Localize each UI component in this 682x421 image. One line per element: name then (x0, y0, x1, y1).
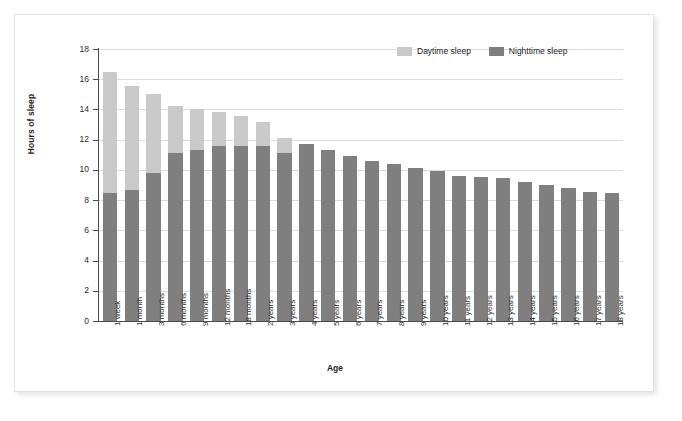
bar-segment-nighttime (365, 161, 379, 321)
bar-column[interactable] (103, 72, 117, 321)
legend-label: Daytime sleep (417, 46, 471, 56)
legend-item[interactable]: Daytime sleep (397, 46, 471, 56)
bar-column[interactable] (408, 168, 422, 321)
plot-area (99, 49, 623, 321)
x-axis-tick-label: 14 years (528, 295, 537, 326)
x-axis-title: Age (15, 363, 655, 373)
bar-segment-daytime (277, 138, 291, 152)
y-axis-tick-label: 6 (61, 226, 89, 235)
y-axis-tick-label-wrap: 4 (55, 256, 89, 265)
y-axis-tick-label-wrap: 0 (55, 317, 89, 326)
bar-segment-daytime (125, 86, 139, 190)
bar-column[interactable] (190, 109, 204, 321)
y-axis-tick-label-wrap: 12 (55, 135, 89, 144)
bar-segment-nighttime (256, 146, 270, 321)
bar-column[interactable] (168, 106, 182, 321)
x-axis-tick-label: 11 years (463, 296, 472, 326)
y-axis-tick-label-wrap: 2 (55, 286, 89, 295)
x-axis-tick-label: 12 years (485, 295, 494, 326)
bar-column[interactable] (256, 122, 270, 321)
bar-column[interactable] (277, 138, 291, 321)
y-axis-tick-label: 8 (61, 196, 89, 205)
bar-column[interactable] (321, 150, 335, 321)
bar-segment-nighttime (321, 150, 335, 321)
bar-segment-daytime (168, 106, 182, 154)
y-axis-tick-label-wrap: 14 (55, 105, 89, 114)
x-axis-tick-label: 18 months (244, 289, 253, 326)
bar-column[interactable] (146, 94, 160, 321)
x-axis-tick-label: 18 years (616, 295, 625, 326)
bar-segment-nighttime (299, 144, 313, 321)
x-axis-tick-label: 1 week (113, 301, 122, 326)
bar-column[interactable] (125, 86, 139, 321)
bar-segment-daytime (212, 112, 226, 146)
x-axis-tick-label: 6 months (179, 293, 188, 326)
y-axis-tick-label-wrap: 6 (55, 226, 89, 235)
y-axis-tick (93, 291, 99, 292)
gridline (99, 79, 623, 80)
x-axis-tick-label: 15 years (550, 295, 559, 326)
y-axis-tick-label: 18 (61, 45, 89, 54)
y-axis-tick (93, 321, 99, 322)
bar-segment-daytime (256, 122, 270, 145)
y-axis-tick-label: 0 (61, 317, 89, 326)
y-axis-tick-label-wrap: 16 (55, 75, 89, 84)
y-axis-tick-label-wrap: 10 (55, 165, 89, 174)
x-axis-tick-label: 3 months (157, 293, 166, 326)
x-axis-tick-label: 4 years (310, 300, 319, 326)
bar-segment-nighttime (277, 153, 291, 321)
y-axis-tick (93, 109, 99, 110)
legend-swatch-icon (489, 47, 504, 56)
x-axis-tick-label: 6 years (354, 300, 363, 326)
x-axis-tick-label: 3 years (288, 300, 297, 326)
x-axis-tick-label: 8 years (397, 300, 406, 326)
y-axis-tick (93, 200, 99, 201)
chart-legend: Daytime sleepNighttime sleep (397, 45, 567, 57)
y-axis-tick (93, 170, 99, 171)
y-axis-tick-label: 14 (61, 105, 89, 114)
y-axis-tick-label-wrap: 8 (55, 196, 89, 205)
y-axis-tick-label: 12 (61, 135, 89, 144)
x-axis-tick-label: 10 years (441, 295, 450, 326)
y-axis-tick (93, 79, 99, 80)
chart-figure: Hours of sleep 024681012141618 1 week1 m… (14, 14, 654, 392)
bar-segment-nighttime (408, 168, 422, 321)
bar-segment-daytime (190, 109, 204, 150)
x-axis-tick-label: 9 years (419, 300, 428, 326)
bar-column[interactable] (365, 161, 379, 321)
x-axis-tick-label: 13 years (506, 295, 515, 326)
y-axis-tick (93, 261, 99, 262)
bar-column[interactable] (299, 144, 313, 321)
bar-segment-daytime (234, 116, 248, 146)
y-axis-tick-label: 16 (61, 75, 89, 84)
bar-segment-daytime (103, 72, 117, 193)
legend-swatch-icon (397, 47, 412, 56)
bar-segment-daytime (146, 94, 160, 173)
y-axis-tick (93, 140, 99, 141)
y-axis-tick-label: 10 (61, 165, 89, 174)
y-axis-tick-label: 4 (61, 256, 89, 265)
x-axis-tick-label: 17 years (594, 295, 603, 326)
x-axis-tick-label: 16 years (572, 295, 581, 326)
x-axis-tick-label: 5 years (332, 300, 341, 326)
x-axis-tick-label: 2 years (266, 300, 275, 326)
x-axis-tick-label: 12 months (223, 289, 232, 326)
bar-segment-nighttime (387, 164, 401, 321)
y-axis-tick (93, 230, 99, 231)
y-axis-tick (93, 49, 99, 50)
x-axis-tick-label: 1 month (135, 297, 144, 326)
y-axis-title: Hours of sleep (26, 64, 36, 184)
legend-label: Nighttime sleep (509, 46, 568, 56)
y-axis-tick-label: 2 (61, 286, 89, 295)
bar-segment-nighttime (343, 156, 357, 321)
legend-item[interactable]: Nighttime sleep (489, 46, 568, 56)
bar-column[interactable] (387, 164, 401, 321)
x-axis-tick-label: 7 years (375, 300, 384, 326)
bar-column[interactable] (343, 156, 357, 321)
x-axis-tick-label: 9 months (201, 293, 210, 326)
y-axis-tick-label-wrap: 18 (55, 45, 89, 54)
